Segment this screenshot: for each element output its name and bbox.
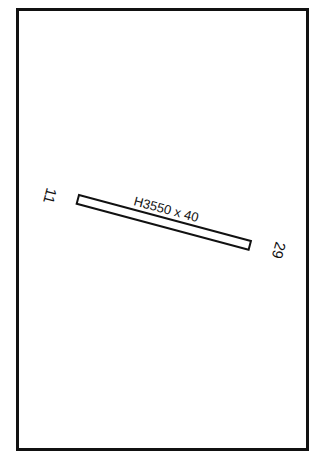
runway-diagram: H3550 x 40 11 29 bbox=[0, 0, 326, 459]
runway-end-29-label: 29 bbox=[269, 240, 290, 261]
runway-end-11-label: 11 bbox=[40, 186, 60, 205]
